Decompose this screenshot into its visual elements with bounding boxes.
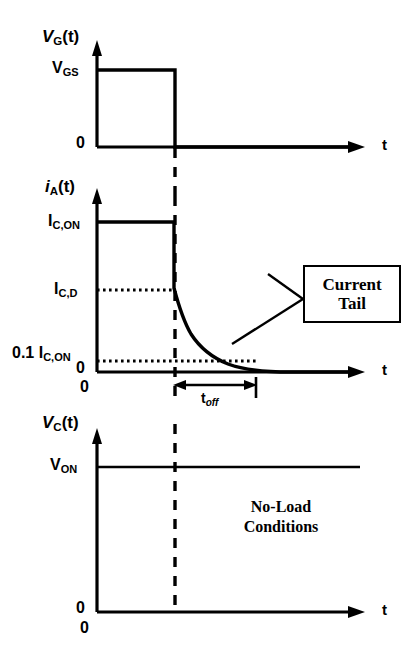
waveform-vector-canvas — [0, 0, 416, 669]
gate-level-label-vgs: VGS — [52, 60, 79, 76]
current-level-label-ic-d: IC,D — [54, 281, 77, 297]
gate-signal-label: VG(t) — [42, 28, 79, 45]
gate-pulse-trace — [97, 70, 352, 147]
igbt-turnoff-waveform-figure: VG(t) VGS 0 t iA(t) IC,ON IC,D 0.1 IC,ON… — [0, 0, 416, 669]
current-y-axis-arrowhead — [92, 188, 102, 204]
current-level-label-ic-on: IC,ON — [48, 213, 80, 229]
collector-y-axis-arrowhead — [92, 428, 102, 444]
panel-gate-voltage — [92, 40, 365, 153]
gate-y-axis-arrowhead — [92, 40, 102, 56]
collector-x-axis-arrowhead — [348, 606, 365, 618]
collector-origin-label-lower: 0 — [80, 620, 89, 636]
current-signal-label: iA(t) — [45, 178, 75, 195]
no-load-conditions-annotation: No-Load Conditions — [198, 497, 364, 537]
current-tail-leader-upper — [268, 274, 303, 299]
gate-x-axis-label: t — [382, 137, 387, 152]
current-tail-leader-lower — [232, 299, 303, 344]
current-level-label-01-ic-on: 0.1 IC,ON — [12, 345, 71, 361]
gate-origin-label: 0 — [76, 135, 85, 151]
collector-x-axis-label: t — [382, 602, 387, 617]
toff-label: toff — [201, 391, 218, 405]
current-x-axis-label: t — [382, 362, 387, 377]
no-load-line-1: No-Load — [198, 497, 364, 517]
current-origin-label-lower: 0 — [80, 379, 89, 395]
collector-signal-label: VC(t) — [42, 414, 79, 431]
no-load-line-2: Conditions — [198, 517, 364, 537]
current-tail-line-2: Tail — [338, 294, 366, 313]
current-origin-label: 0 — [76, 360, 85, 376]
collector-level-label-von: VON — [50, 457, 77, 473]
current-tail-line-1: Current — [322, 275, 381, 294]
current-tail-callout: Current Tail — [303, 265, 401, 323]
collector-origin-label: 0 — [76, 600, 85, 616]
